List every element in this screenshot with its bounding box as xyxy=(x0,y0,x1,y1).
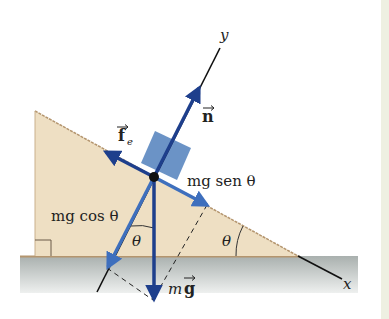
x-axis-label: x xyxy=(343,275,352,293)
perpendicular-component-label: mg cos θ xyxy=(51,207,119,225)
svg-text:f: f xyxy=(118,126,126,145)
normal-force-label: n xyxy=(202,106,214,127)
center-of-mass-dot xyxy=(149,172,159,182)
component-angle-label: θ xyxy=(132,232,141,250)
parallel-component-label: mg sen θ xyxy=(187,172,256,190)
svg-text:m: m xyxy=(168,280,182,298)
incline-angle-label: θ xyxy=(222,232,231,250)
svg-text:g: g xyxy=(184,279,195,298)
y-axis-label: y xyxy=(219,26,229,44)
svg-text:e: e xyxy=(127,136,133,147)
incline-diagram: θ y x θ n f e mg sen θ mg cos θ m g xyxy=(0,0,389,319)
friction-force-label: f e xyxy=(117,125,133,148)
